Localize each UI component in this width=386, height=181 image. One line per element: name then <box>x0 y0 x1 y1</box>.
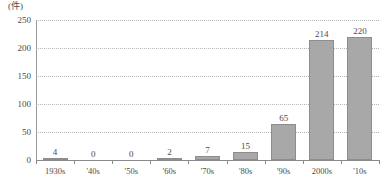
bar-value-label: 214 <box>315 29 329 39</box>
x-axis-tick <box>74 160 75 164</box>
bar <box>347 37 372 160</box>
bar-chart: (件) 050100150200250 400271565214220 1930… <box>0 0 386 181</box>
x-axis-tick-label: '90s <box>265 166 303 176</box>
bar <box>233 152 258 160</box>
x-axis-tick-label: 2000s <box>303 166 341 176</box>
bar-value-label: 220 <box>353 26 367 36</box>
x-axis-tick-label: '70s <box>188 166 226 176</box>
x-axis-tick <box>36 160 37 164</box>
y-axis-unit-label: (件) <box>8 1 23 12</box>
y-axis-tick-label: 250 <box>0 16 31 25</box>
x-axis-tick <box>150 160 151 164</box>
bar-value-label: 0 <box>91 149 96 159</box>
y-axis-tick-label: 150 <box>0 72 31 81</box>
bars-layer: 400271565214220 <box>36 20 379 160</box>
y-axis-tick-label: 100 <box>0 100 31 109</box>
x-axis-tick <box>341 160 342 164</box>
y-axis-tick-label: 0 <box>0 156 31 165</box>
x-axis-tick-label: '50s <box>112 166 150 176</box>
bar-value-label: 65 <box>279 113 288 123</box>
bar <box>271 124 296 160</box>
bar-slot: 7 <box>195 20 220 160</box>
x-axis-tick <box>188 160 189 164</box>
bar-value-label: 7 <box>205 145 210 155</box>
x-axis-tick-label: '40s <box>74 166 112 176</box>
bar <box>309 40 334 160</box>
x-axis-tick-label: '60s <box>150 166 188 176</box>
x-axis-tick <box>303 160 304 164</box>
bar-slot: 2 <box>157 20 182 160</box>
bar-value-label: 4 <box>53 147 58 157</box>
bar-value-label: 2 <box>167 147 172 157</box>
bar-value-label: 0 <box>129 149 134 159</box>
bar-slot: 0 <box>81 20 106 160</box>
bar-slot: 214 <box>309 20 334 160</box>
bar-slot: 0 <box>119 20 144 160</box>
x-axis-tick-label: '10s <box>341 166 379 176</box>
y-axis-tick-label: 200 <box>0 44 31 53</box>
x-axis-tick <box>379 160 380 164</box>
bar-slot: 4 <box>43 20 68 160</box>
x-axis-line <box>36 160 379 161</box>
bar-slot: 65 <box>271 20 296 160</box>
x-axis-tick <box>265 160 266 164</box>
x-axis-tick <box>227 160 228 164</box>
bar-value-label: 15 <box>241 141 250 151</box>
y-axis-tick-label: 50 <box>0 128 31 137</box>
bar-slot: 220 <box>347 20 372 160</box>
bar-slot: 15 <box>233 20 258 160</box>
x-axis-tick <box>112 160 113 164</box>
x-axis-tick-label: '80s <box>227 166 265 176</box>
x-axis-tick-label: 1930s <box>36 166 74 176</box>
